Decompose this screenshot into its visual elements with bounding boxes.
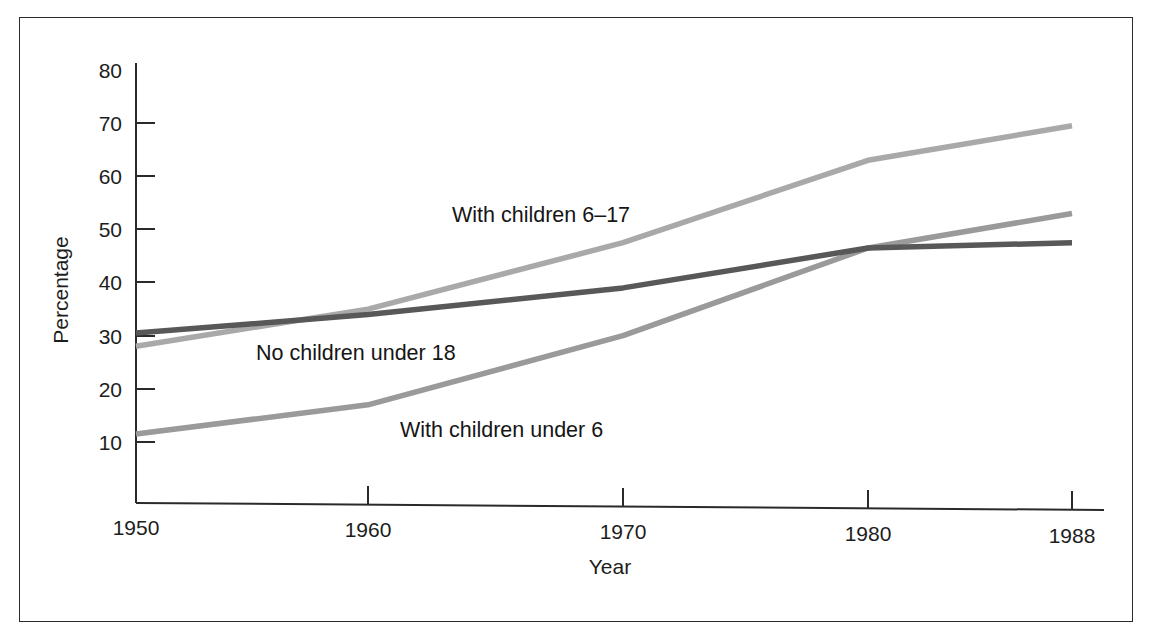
series-label-no-children-under-18: No children under 18 [256,341,456,365]
y-axis-title: Percentage [49,236,72,343]
series-label-with-children-under-6: With children under 6 [400,418,603,442]
x-tick-label-1988: 1988 [1049,524,1096,547]
x-tick-label-1980: 1980 [845,522,892,545]
x-axis-line [136,503,1104,510]
y-tick-label-60: 60 [99,165,122,188]
series-line-no-children-under-18 [136,243,1072,333]
y-tick-label-80: 80 [99,59,122,82]
y-tick-label-20: 20 [99,378,122,401]
y-tick-label-50: 50 [99,218,122,241]
y-tick-label-40: 40 [99,271,122,294]
figure-container: 80 70 60 50 40 30 20 10 Percentage 1950 … [0,0,1151,636]
y-tick-label-70: 70 [99,112,122,135]
x-tick-labels: 1950 1960 1970 1980 1988 [113,516,1096,547]
series-label-with-children-6-17: With children 6–17 [452,203,630,227]
y-tick-labels: 80 70 60 50 40 30 20 10 [99,59,122,454]
x-axis-title: Year [589,555,631,578]
series-annotations: With children 6–17 No children under 18 … [256,203,630,442]
x-tick-label-1950: 1950 [113,516,160,539]
x-tick-label-1970: 1970 [600,520,647,543]
x-tick-label-1960: 1960 [345,518,392,541]
y-tick-label-30: 30 [99,325,122,348]
series-lines [136,126,1072,434]
line-chart: 80 70 60 50 40 30 20 10 Percentage 1950 … [0,0,1151,636]
y-tick-marks [136,70,155,442]
y-tick-label-10: 10 [99,431,122,454]
